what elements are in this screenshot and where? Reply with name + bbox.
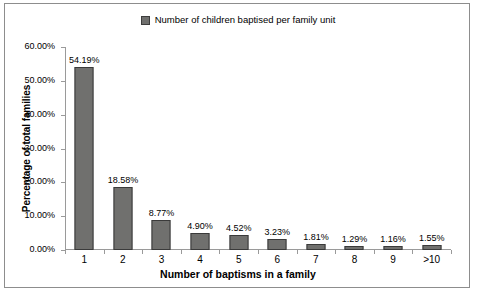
bar-group: 1.16%9 [374, 47, 413, 250]
x-axis-tick [258, 250, 259, 254]
x-axis-tick [297, 250, 298, 254]
x-axis-category-label: 4 [197, 254, 203, 265]
x-axis-title: Number of baptisms in a family [5, 268, 471, 280]
bar-value-label: 4.90% [187, 221, 213, 231]
bar-value-label: 1.16% [380, 234, 406, 244]
bar-group: 18.58%2 [104, 47, 143, 250]
x-axis-category-label: 2 [120, 254, 126, 265]
bar-value-label: 54.19% [69, 55, 100, 65]
x-axis-category-label: 6 [275, 254, 281, 265]
y-axis-tick-label: 0.00% [29, 244, 55, 254]
bar-value-label: 1.81% [303, 232, 329, 242]
x-axis-category-label: 3 [159, 254, 165, 265]
y-axis-tick-label: 40.00% [24, 109, 55, 119]
bar-value-label: 1.55% [419, 233, 445, 243]
x-axis-category-label: >10 [423, 254, 440, 265]
bar[interactable] [306, 244, 325, 250]
x-axis-tick [412, 250, 413, 254]
bar-value-label: 8.77% [149, 208, 175, 218]
bar[interactable] [191, 233, 210, 250]
x-axis-category-label: 5 [236, 254, 242, 265]
bar[interactable] [268, 239, 287, 250]
bar-value-label: 3.23% [265, 227, 291, 237]
bar-group: 1.81%7 [297, 47, 336, 250]
bar-group: 1.55%>10 [412, 47, 451, 250]
x-axis-category-label: 8 [352, 254, 358, 265]
bar-group: 4.90%4 [181, 47, 220, 250]
bar[interactable] [229, 235, 248, 250]
x-axis-tick [142, 250, 143, 254]
bar[interactable] [75, 67, 94, 250]
y-axis-tick-label: 50.00% [24, 75, 55, 85]
chart-legend: Number of children baptised per family u… [5, 15, 471, 25]
chart-frame: Number of children baptised per family u… [4, 3, 470, 288]
x-axis-tick [104, 250, 105, 254]
y-axis-tick-label: 30.00% [24, 143, 55, 153]
x-axis-category-label: 7 [313, 254, 319, 265]
bar-group: 3.23%6 [258, 47, 297, 250]
bar-group: 54.19%1 [65, 47, 104, 250]
x-axis-tick [219, 250, 220, 254]
x-axis-tick [374, 250, 375, 254]
plot-area: 0.00%10.00%20.00%30.00%40.00%50.00%60.00… [65, 47, 451, 250]
x-axis-category-label: 9 [390, 254, 396, 265]
x-axis-tick [335, 250, 336, 254]
bar-group: 1.29%8 [335, 47, 374, 250]
bar[interactable] [152, 220, 171, 250]
bar-value-label: 18.58% [108, 175, 139, 185]
bar[interactable] [384, 246, 403, 250]
y-axis-tick-label: 60.00% [24, 41, 55, 51]
y-axis-tick-label: 10.00% [24, 210, 55, 220]
legend-swatch-icon [141, 16, 150, 25]
bar[interactable] [422, 245, 441, 250]
x-axis-tick [181, 250, 182, 254]
bar-group: 8.77%3 [142, 47, 181, 250]
x-axis-tick [451, 250, 452, 254]
legend-label: Number of children baptised per family u… [155, 15, 336, 25]
bar[interactable] [113, 187, 132, 250]
x-axis-category-label: 1 [82, 254, 88, 265]
bar[interactable] [345, 246, 364, 250]
bar-value-label: 4.52% [226, 223, 252, 233]
y-axis-tick-label: 20.00% [24, 176, 55, 186]
x-axis-tick [65, 250, 66, 254]
bar-value-label: 1.29% [342, 234, 368, 244]
bar-group: 4.52%5 [219, 47, 258, 250]
